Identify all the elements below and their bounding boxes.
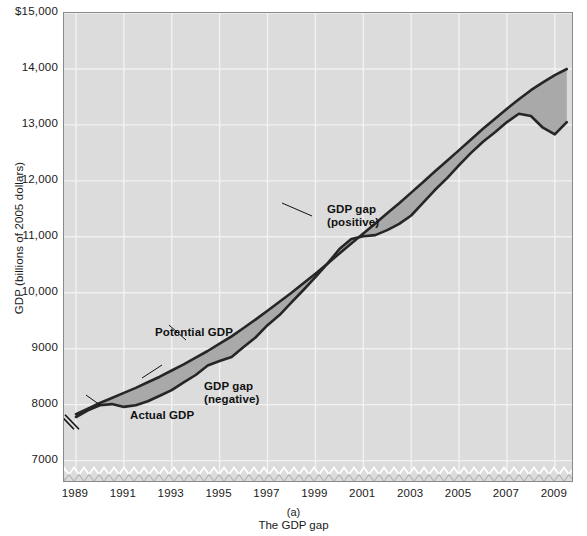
- x-axis-tick-label: 2009: [527, 487, 581, 499]
- x-axis-tick-label: 1991: [96, 487, 150, 499]
- y-axis-tick-label: 12,000: [0, 173, 58, 185]
- y-axis-tick-label: 11,000: [0, 229, 58, 241]
- x-axis-tick-label: 2001: [335, 487, 389, 499]
- y-axis-tick-label: 13,000: [0, 117, 58, 129]
- figure-caption: The GDP gap: [0, 519, 587, 531]
- gdp-curves: [76, 69, 567, 417]
- annotation-gdp-gap-negative-line2: (negative): [204, 393, 259, 406]
- annotation-gdp-gap-positive-line1: GDP gap: [327, 203, 379, 216]
- x-axis: 1989199119931995199719992001200320052007…: [0, 487, 587, 507]
- annotation-gdp-gap-negative-line1: GDP gap: [204, 380, 259, 393]
- y-axis-tick-label: 14,000: [0, 61, 58, 73]
- y-axis: $15,00014,00013,00012,00011,00010,000900…: [0, 0, 58, 536]
- x-axis-tick-label: 1989: [48, 487, 102, 499]
- x-axis-tick-label: 2003: [383, 487, 437, 499]
- annotation-potential-gdp: Potential GDP: [155, 326, 233, 339]
- axis-break-zigzag: [64, 468, 573, 482]
- x-axis-tick-label: 1997: [240, 487, 294, 499]
- y-axis-tick-label: 7000: [0, 453, 58, 465]
- x-axis-tick-label: 1993: [144, 487, 198, 499]
- y-axis-tick-label: 10,000: [0, 285, 58, 297]
- annotation-gdp-gap-positive-line2: (positive): [327, 216, 379, 229]
- x-axis-tick-label: 2007: [479, 487, 533, 499]
- x-axis-tick-label: 1995: [192, 487, 246, 499]
- y-axis-tick-label: $15,000: [0, 5, 58, 17]
- chart-figure: $15,00014,00013,00012,00011,00010,000900…: [0, 0, 587, 536]
- annotation-gdp-gap-positive: GDP gap (positive): [327, 203, 379, 229]
- figure-panel-letter: (a): [0, 506, 587, 518]
- plot-area: Potential GDP Actual GDP GDP gap (negati…: [63, 12, 573, 482]
- y-axis-tick-label: 9000: [0, 341, 58, 353]
- y-axis-tick-label: 8000: [0, 397, 58, 409]
- y-axis-title: GDP (billions of 2005 dollars): [13, 133, 25, 343]
- x-axis-tick-label: 1999: [287, 487, 341, 499]
- annotation-actual-gdp: Actual GDP: [130, 409, 194, 422]
- annotation-gdp-gap-negative: GDP gap (negative): [204, 380, 259, 406]
- x-axis-tick-label: 2005: [431, 487, 485, 499]
